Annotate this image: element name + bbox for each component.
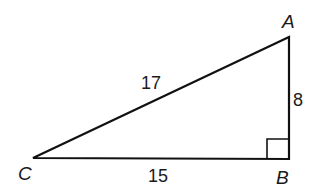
side-label-cb: 15	[148, 166, 168, 186]
vertex-label-c: C	[18, 163, 32, 184]
triangle-abc	[33, 37, 289, 159]
triangle-diagram: A B C 17 8 15	[0, 0, 319, 193]
vertex-label-a: A	[281, 11, 295, 32]
side-label-ca: 17	[141, 73, 161, 93]
right-angle-marker	[267, 139, 289, 159]
vertex-label-b: B	[276, 167, 289, 188]
side-label-ab: 8	[293, 90, 303, 110]
